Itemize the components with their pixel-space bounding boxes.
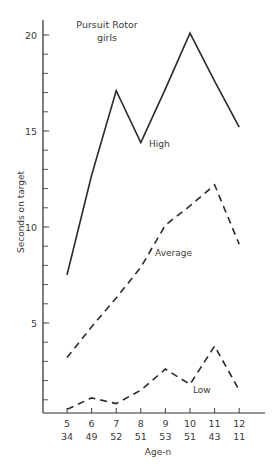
series-label-high: High [149, 139, 170, 149]
x-tick-label-age: 8 [138, 418, 144, 429]
x-tick-label-n: 49 [86, 431, 98, 442]
x-tick-label-age: 6 [89, 418, 95, 429]
x-tick-label-age: 10 [184, 418, 196, 429]
x-tick-label-age: 5 [64, 418, 70, 429]
series-label-low: Low [193, 385, 211, 395]
x-tick-label-age: 11 [209, 418, 221, 429]
series-label-average: Average [155, 248, 192, 258]
chart-title-line2: girls [97, 32, 117, 43]
x-tick-label-n: 53 [159, 431, 171, 442]
x-tick-label-age: 12 [233, 418, 245, 429]
x-tick-label-n: 51 [184, 431, 196, 442]
x-axis: 534649752851953105111431211 Age-n [43, 408, 265, 457]
x-tick-label-n: 51 [135, 431, 147, 442]
x-tick-label-n: 11 [233, 431, 245, 442]
y-tick-label: 10 [25, 222, 37, 233]
series-lines [67, 33, 239, 409]
y-tick-label: 20 [25, 30, 37, 41]
x-tick-label-n: 34 [61, 431, 73, 442]
series-line-high [67, 33, 239, 275]
y-tick-label: 5 [31, 318, 37, 329]
y-axis: 5101520 Seconds on target [16, 20, 49, 413]
y-ticks: 5101520 [25, 30, 49, 400]
x-tick-label-age: 9 [162, 418, 168, 429]
x-axis-label: Age-n [145, 447, 171, 457]
series-line-low [67, 346, 239, 409]
series-line-average [67, 185, 239, 358]
chart-title: Pursuit Rotor girls [76, 19, 137, 43]
line-chart: 5101520 Seconds on target 53464975285195… [0, 0, 278, 474]
chart-title-line1: Pursuit Rotor [76, 19, 137, 30]
y-tick-label: 15 [25, 126, 37, 137]
x-tick-label-n: 43 [209, 431, 221, 442]
x-tick-label-n: 52 [110, 431, 122, 442]
x-tick-label-age: 7 [113, 418, 119, 429]
y-axis-label: Seconds on target [16, 170, 26, 253]
